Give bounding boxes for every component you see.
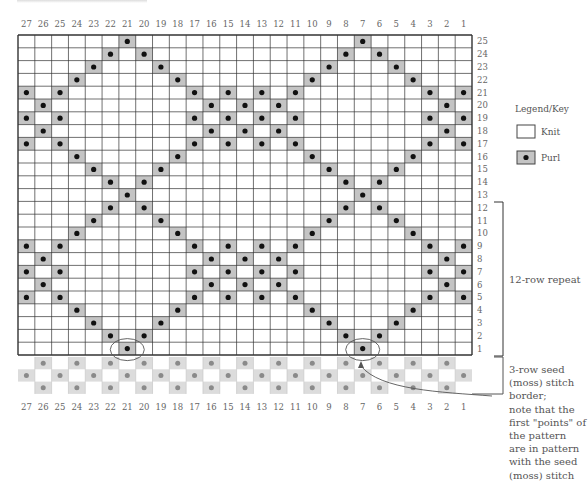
chart-cells (18, 35, 472, 355)
purl-dot-icon (108, 52, 113, 57)
purl-dot-icon (427, 244, 432, 249)
purl-dot-icon (259, 244, 264, 249)
column-label: 26 (38, 402, 49, 412)
purl-dot-icon (461, 141, 466, 146)
purl-dot-icon (394, 64, 399, 69)
purl-dot-icon (192, 269, 197, 274)
column-labels-bottom: 2726252423222120191817161514131211109876… (21, 402, 466, 412)
row-label: 1 (477, 344, 482, 354)
column-label: 9 (326, 19, 331, 29)
chart-grid (18, 35, 472, 355)
purl-dot-icon (411, 308, 416, 313)
purl-dot-icon (343, 52, 348, 57)
column-label: 25 (55, 402, 66, 412)
purl-dot-icon (226, 141, 231, 146)
column-label: 1 (461, 19, 466, 29)
purl-dot-icon (192, 90, 197, 95)
purl-dot-icon (226, 269, 231, 274)
seed-dot-icon (142, 385, 147, 390)
purl-dot-icon (24, 116, 29, 121)
purl-dot-icon (158, 320, 163, 325)
purl-dot-icon (427, 295, 432, 300)
seed-dot-icon (91, 373, 96, 378)
purl-dot-icon (427, 269, 432, 274)
purl-dot-icon (74, 231, 79, 236)
purl-dot-icon (142, 180, 147, 185)
purl-dot-icon (226, 116, 231, 121)
border-note-line: (moss) stitch (509, 470, 575, 481)
column-label: 22 (105, 402, 116, 412)
purl-dot-icon (125, 192, 130, 197)
column-label: 9 (326, 402, 331, 412)
purl-dot-icon (108, 180, 113, 185)
purl-dot-icon (125, 346, 130, 351)
purl-dot-icon (24, 244, 29, 249)
seed-dot-icon (327, 373, 332, 378)
purl-dot-icon (91, 64, 96, 69)
column-label: 15 (223, 402, 234, 412)
purl-dot-icon (444, 103, 449, 108)
purl-dot-icon (293, 116, 298, 121)
column-label: 6 (377, 402, 382, 412)
column-label: 25 (55, 19, 66, 29)
purl-dot-icon (293, 244, 298, 249)
column-label: 8 (343, 19, 348, 29)
purl-dot-icon (57, 90, 62, 95)
repeat-bracket (494, 202, 503, 356)
purl-dot-icon (259, 141, 264, 146)
column-label: 23 (88, 402, 99, 412)
column-label: 17 (189, 402, 200, 412)
purl-dot-icon (175, 154, 180, 159)
purl-dot-icon (259, 269, 264, 274)
seed-dot-icon (343, 385, 348, 390)
purl-dot-icon (242, 128, 247, 133)
purl-dot-icon (142, 205, 147, 210)
purl-dot-icon (523, 155, 528, 160)
row-label: 8 (477, 254, 482, 264)
row-label: 6 (477, 280, 482, 290)
purl-dot-icon (175, 231, 180, 236)
seed-dot-icon (24, 373, 29, 378)
border-bracket (472, 357, 503, 394)
seed-dot-icon (175, 361, 180, 366)
border-note-line: with the seed (509, 456, 578, 467)
column-label: 7 (360, 402, 365, 412)
border-note-line: first "points" of (509, 417, 587, 428)
column-label: 10 (307, 402, 318, 412)
purl-dot-icon (226, 295, 231, 300)
repeat-label: 12-row repeat (509, 274, 581, 285)
purl-dot-icon (394, 167, 399, 172)
purl-dot-icon (24, 90, 29, 95)
seed-dot-icon (243, 361, 248, 366)
column-label: 20 (139, 402, 150, 412)
row-label: 2 (477, 331, 482, 341)
row-label: 9 (477, 241, 482, 251)
purl-dot-icon (444, 282, 449, 287)
purl-dot-icon (108, 205, 113, 210)
purl-dot-icon (41, 128, 46, 133)
purl-dot-icon (242, 256, 247, 261)
seed-dot-icon (427, 373, 432, 378)
purl-dot-icon (461, 116, 466, 121)
purl-dot-icon (411, 231, 416, 236)
purl-dot-icon (427, 116, 432, 121)
purl-dot-icon (242, 282, 247, 287)
purl-dot-icon (326, 64, 331, 69)
column-label: 16 (206, 19, 217, 29)
purl-dot-icon (209, 103, 214, 108)
row-label: 12 (477, 203, 488, 213)
purl-dot-icon (57, 244, 62, 249)
purl-dot-icon (259, 90, 264, 95)
purl-dot-icon (293, 269, 298, 274)
purl-dot-icon (310, 231, 315, 236)
column-label: 10 (307, 19, 318, 29)
row-label: 25 (477, 36, 488, 46)
purl-dot-icon (175, 77, 180, 82)
purl-dot-icon (360, 192, 365, 197)
border-note-line: border; (509, 390, 547, 401)
row-label: 10 (477, 228, 488, 238)
column-label: 14 (240, 19, 251, 29)
column-label: 13 (256, 19, 267, 29)
row-label: 14 (477, 177, 488, 187)
row-label: 23 (477, 62, 488, 72)
